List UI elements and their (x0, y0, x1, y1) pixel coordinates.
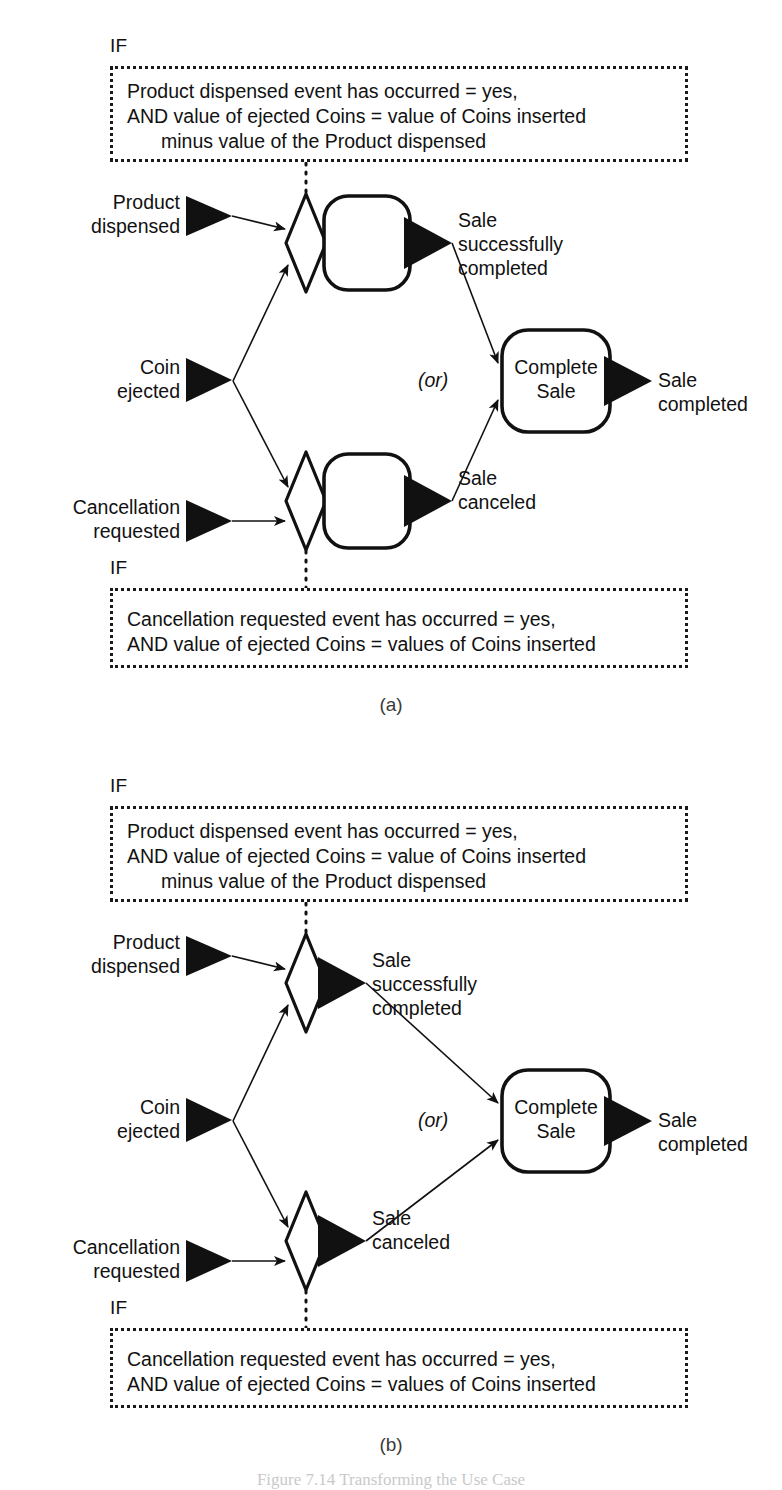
input-label-coin-ejected: Coin ejected (0, 1095, 180, 1143)
output-label-sale-successfully-completed: Sale successfully completed (372, 948, 477, 1020)
output-label-line-1: Sale (658, 368, 748, 392)
input-label-product-dispensed: Product dispensed (0, 930, 180, 978)
output-triangle-sale-canceled (318, 1215, 366, 1267)
junction-label-or: (or) (418, 368, 448, 392)
output-label-line-1: Sale (372, 948, 477, 972)
condition-box-bottom: Cancellation requested event has occurre… (110, 588, 688, 668)
flow-coin-to-upper-decision (233, 265, 288, 381)
output-triangle-sale-completed (604, 1096, 652, 1146)
if-label-bottom: IF (110, 558, 127, 577)
input-label-line-1: Cancellation (0, 1235, 180, 1259)
input-label-line-2: requested (0, 1259, 180, 1283)
input-label-line-1: Product (0, 190, 180, 214)
flow-product-to-decision (232, 216, 285, 229)
output-label-line-1: Sale (658, 1108, 748, 1132)
event-triangle-product-dispensed (186, 196, 232, 236)
condition-line-2: AND value of ejected Coins = values of C… (127, 1372, 671, 1397)
if-label-top: IF (110, 36, 127, 55)
flow-coin-to-upper-decision (233, 1005, 288, 1121)
event-triangle-cancellation-requested (186, 500, 232, 542)
input-label-cancellation-requested: Cancellation requested (0, 1235, 180, 1283)
condition-line-2: AND value of ejected Coins = value of Co… (127, 844, 671, 869)
output-label-line-3: completed (458, 256, 563, 280)
process-label-line-2: Sale (502, 1119, 610, 1143)
output-label-sale-successfully-completed: Sale successfully completed (458, 208, 563, 280)
process-label-complete-sale: Complete Sale (502, 355, 610, 403)
event-triangle-cancellation-requested (186, 1240, 232, 1282)
output-triangle-sale-completed (604, 356, 652, 406)
event-triangle-product-dispensed (186, 936, 232, 976)
output-label-line-2: canceled (372, 1230, 450, 1254)
output-label-line-2: successfully (372, 972, 477, 996)
input-label-line-2: ejected (0, 1119, 180, 1143)
panel-caption-b: (b) (0, 1434, 782, 1456)
junction-label-or: (or) (418, 1108, 448, 1132)
output-label-line-2: completed (658, 392, 748, 416)
condition-line-1: Product dispensed event has occurred = y… (127, 79, 671, 104)
input-label-line-1: Coin (0, 355, 180, 379)
event-triangle-coin-ejected (186, 1098, 232, 1142)
condition-line-3: minus value of the Product dispensed (127, 129, 671, 154)
input-label-line-2: dispensed (0, 954, 180, 978)
output-label-line-1: Sale (372, 1206, 450, 1230)
input-label-product-dispensed: Product dispensed (0, 190, 180, 238)
if-label-bottom: IF (110, 1298, 127, 1317)
condition-line-2: AND value of ejected Coins = value of Co… (127, 104, 671, 129)
flow-coin-to-lower-decision (233, 1121, 288, 1227)
input-label-line-2: dispensed (0, 214, 180, 238)
panel-b: IF Product dispensed event has occurred … (0, 742, 782, 1484)
condition-line-1: Cancellation requested event has occurre… (127, 1341, 671, 1372)
output-label-line-2: canceled (458, 490, 536, 514)
output-label-line-1: Sale (458, 208, 563, 232)
input-label-line-2: ejected (0, 379, 180, 403)
condition-box-top: Product dispensed event has occurred = y… (110, 66, 688, 162)
output-label-sale-completed: Sale completed (658, 368, 748, 416)
output-label-sale-canceled: Sale canceled (372, 1206, 450, 1254)
panel-caption-a: (a) (0, 694, 782, 716)
condition-box-top: Product dispensed event has occurred = y… (110, 806, 688, 902)
output-label-line-2: completed (658, 1132, 748, 1156)
condition-line-1: Cancellation requested event has occurre… (127, 601, 671, 632)
output-label-sale-completed: Sale completed (658, 1108, 748, 1156)
decision-diamond-upper (286, 194, 326, 292)
condition-line-1: Product dispensed event has occurred = y… (127, 819, 671, 844)
decision-diamond-lower (286, 452, 326, 550)
output-triangle-sale-successfully-completed (404, 217, 452, 269)
process-box-upper (324, 196, 410, 290)
panel-a: IF Product dispensed event has occurred … (0, 0, 782, 742)
output-label-line-2: successfully (458, 232, 563, 256)
process-label-line-1: Complete (502, 355, 610, 379)
flow-product-to-decision (232, 956, 285, 969)
process-label-complete-sale: Complete Sale (502, 1095, 610, 1143)
figure-caption: Figure 7.14 Transforming the Use Case (0, 1470, 782, 1490)
input-label-cancellation-requested: Cancellation requested (0, 495, 180, 543)
input-label-coin-ejected: Coin ejected (0, 355, 180, 403)
output-label-line-3: completed (372, 996, 477, 1020)
condition-box-bottom: Cancellation requested event has occurre… (110, 1328, 688, 1408)
if-label-top: IF (110, 776, 127, 795)
process-label-line-2: Sale (502, 379, 610, 403)
output-triangle-sale-canceled (404, 475, 452, 527)
input-label-line-1: Product (0, 930, 180, 954)
output-label-sale-canceled: Sale canceled (458, 466, 536, 514)
output-triangle-sale-successfully-completed (318, 957, 366, 1009)
output-label-line-1: Sale (458, 466, 536, 490)
input-label-line-1: Coin (0, 1095, 180, 1119)
input-label-line-1: Cancellation (0, 495, 180, 519)
condition-line-2: AND value of ejected Coins = values of C… (127, 632, 671, 657)
process-label-line-1: Complete (502, 1095, 610, 1119)
event-triangle-coin-ejected (186, 358, 232, 402)
process-box-lower (324, 454, 410, 548)
condition-line-3: minus value of the Product dispensed (127, 869, 671, 894)
input-label-line-2: requested (0, 519, 180, 543)
flow-coin-to-lower-decision (233, 381, 288, 487)
